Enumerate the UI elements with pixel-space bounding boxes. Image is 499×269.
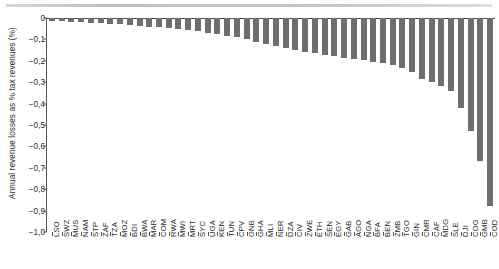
bar-caf xyxy=(429,18,435,82)
bar-rwa xyxy=(166,18,172,28)
bar-ken xyxy=(214,18,220,34)
bar-civ xyxy=(292,18,298,50)
x-label-slot: SEN xyxy=(320,232,330,269)
x-label-slot: CPV xyxy=(232,232,242,269)
x-label-slot: AGO xyxy=(349,232,359,269)
x-label-slot: CMR xyxy=(417,232,427,269)
bar-tza xyxy=(107,18,113,24)
x-label-slot: KEN xyxy=(213,232,223,269)
x-label-slot: ETH xyxy=(310,232,320,269)
x-label-slot: GAB xyxy=(339,232,349,269)
x-label-slot: BDI xyxy=(125,232,135,269)
bar-gin xyxy=(409,18,415,72)
y-tick-mark xyxy=(43,167,47,168)
bar-zwe xyxy=(302,18,308,52)
bar-mus xyxy=(68,18,74,22)
x-label-slot: NAM xyxy=(76,232,86,269)
bar-gab xyxy=(341,18,347,58)
x-label-slot: ZMB xyxy=(388,232,398,269)
x-label-slot: BEN xyxy=(378,232,388,269)
bar-tgo xyxy=(399,18,405,68)
x-label-slot: ZWE xyxy=(300,232,310,269)
x-label-slot: TGO xyxy=(398,232,408,269)
x-label-slot: COM xyxy=(154,232,164,269)
bar-swz xyxy=(59,18,65,21)
bar-dza xyxy=(283,18,289,48)
bar-nga xyxy=(361,18,367,60)
bar-com xyxy=(156,18,162,27)
bar-mdg xyxy=(438,18,444,86)
x-label-slot: MWI xyxy=(174,232,184,269)
x-label-slot: CIV xyxy=(290,232,300,269)
x-label-slot: DZA xyxy=(281,232,291,269)
bar-mrt xyxy=(185,18,191,30)
x-label-slot: SYC xyxy=(193,232,203,269)
bar-cpv xyxy=(234,18,240,37)
y-tick-mark xyxy=(43,60,47,61)
x-label-slot: MDG xyxy=(437,232,447,269)
y-tick-mark xyxy=(43,18,47,19)
y-tick-mark xyxy=(43,39,47,40)
bar-cmr xyxy=(419,18,425,79)
bar-moz xyxy=(117,18,123,24)
y-tick-mark xyxy=(43,103,47,104)
y-tick-mark xyxy=(43,189,47,190)
bar-bdi xyxy=(127,18,133,25)
bar-syc xyxy=(195,18,201,31)
bar-uga xyxy=(205,18,211,33)
x-label-slot: NER xyxy=(271,232,281,269)
x-label-slot: TUN xyxy=(222,232,232,269)
x-label-slot: RWA xyxy=(164,232,174,269)
x-label-slot: GIN xyxy=(407,232,417,269)
bar-egy xyxy=(331,18,337,56)
x-label-slot: TZA xyxy=(105,232,115,269)
x-label-slot: BFA xyxy=(368,232,378,269)
bar-bfa xyxy=(370,18,376,62)
bar-mwi xyxy=(175,18,181,29)
plot-area: 0−0,1−0,2−0,3−0,4−0,5−0,6−0,7−0,8−0,9−1,… xyxy=(47,18,495,232)
bar-gha xyxy=(253,18,259,42)
bar-cog xyxy=(468,18,474,131)
bar-sle xyxy=(448,18,454,91)
bar-tun xyxy=(224,18,230,36)
x-label-slot: GMB xyxy=(476,232,486,269)
x-label-slot: UGA xyxy=(203,232,213,269)
x-label-slot: GHA xyxy=(252,232,262,269)
bar-lso xyxy=(49,18,55,21)
bar-ago xyxy=(351,18,357,59)
y-tick-mark xyxy=(43,146,47,147)
x-label-slot: STP xyxy=(86,232,96,269)
bar-ben xyxy=(380,18,386,63)
bar-eth xyxy=(312,18,318,53)
bar-nam xyxy=(78,18,84,22)
x-label-slot: NGA xyxy=(359,232,369,269)
bar-ner xyxy=(273,18,279,46)
x-label-slot: MOZ xyxy=(115,232,125,269)
bar-dji xyxy=(458,18,464,108)
x-label-slot: CAF xyxy=(427,232,437,269)
bar-sen xyxy=(322,18,328,55)
x-label-slot: LSO xyxy=(47,232,57,269)
x-label-slot: MRT xyxy=(183,232,193,269)
x-label-slot: GNB xyxy=(242,232,252,269)
x-label-slot: EGY xyxy=(329,232,339,269)
x-label-slot: ZAF xyxy=(96,232,106,269)
bar-gmb xyxy=(477,18,483,161)
bar-stp xyxy=(88,18,94,23)
bar-cod xyxy=(487,18,493,206)
y-tick-mark xyxy=(43,82,47,83)
y-axis-title: Annual revenue losses as % tax revenues … xyxy=(8,0,22,228)
x-label-slot: DJI xyxy=(456,232,466,269)
x-label-slot: MUS xyxy=(66,232,76,269)
y-tick-mark xyxy=(43,210,47,211)
scan-artifact-rule xyxy=(6,4,492,7)
x-tick-label-cod: COD xyxy=(490,220,499,237)
bar-bwa xyxy=(137,18,143,26)
x-label-slot: MAR xyxy=(144,232,154,269)
x-label-slot: BWA xyxy=(135,232,145,269)
bar-zmb xyxy=(390,18,396,65)
y-tick-mark xyxy=(43,125,47,126)
bar-gnb xyxy=(244,18,250,39)
x-label-slot: SLE xyxy=(446,232,456,269)
